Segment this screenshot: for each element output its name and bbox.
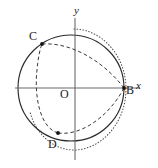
x-axis-label: x	[136, 80, 141, 91]
origin-label: O	[60, 88, 69, 100]
dashed-ellipse-upper-arc	[42, 44, 124, 88]
point-label-b: B	[126, 84, 134, 96]
point-marker-d	[56, 131, 60, 135]
point-marker-c	[40, 42, 44, 46]
point-label-d: D	[48, 138, 57, 150]
dotted-oval-curve	[30, 29, 126, 150]
geometry-figure: y x O C B D	[0, 0, 158, 168]
y-axis-label: y	[74, 5, 79, 16]
figure-canvas	[0, 0, 158, 168]
point-label-c: C	[29, 30, 37, 42]
